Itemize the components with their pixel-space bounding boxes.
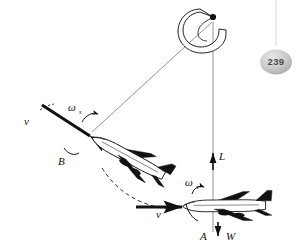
radius-lines (92, 22, 213, 232)
page-number-badge: 239 (260, 0, 292, 75)
pivot-point (210, 14, 216, 20)
velocity-label-B: v (24, 115, 29, 127)
omega-symbol-A: ω (185, 176, 193, 188)
rotation-inner-arc (198, 18, 212, 41)
weight-label: W (226, 230, 236, 242)
position-label-A: A (199, 230, 207, 242)
aircraft-loop-diagram: ω s v B ω (0, 0, 300, 244)
omega-symbol-B: ω (68, 101, 76, 113)
position-label-B: B (58, 155, 65, 167)
aircraft-B-group: ω s v B (24, 101, 176, 192)
radius-to-position-B (92, 22, 212, 132)
figure-canvas: ω s v B ω (0, 0, 300, 244)
velocity-vector-B (40, 104, 90, 136)
omega-subscript-B: s (79, 108, 82, 115)
velocity-label-A: v (156, 208, 161, 220)
page-number-text: 239 (268, 56, 285, 67)
lift-label: L (218, 150, 225, 162)
aircraft-A-group: ω s v A (136, 176, 272, 242)
omega-label-B: ω s (68, 101, 82, 115)
omega-label-A: ω s (185, 176, 199, 190)
angular-velocity-arc-B (64, 113, 98, 154)
